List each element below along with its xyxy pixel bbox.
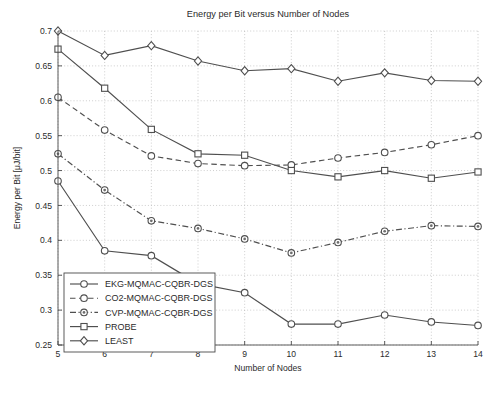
data-point-marker: [335, 239, 342, 246]
data-point-marker: [101, 187, 108, 194]
series-line-2: [58, 154, 478, 253]
x-tick-label: 9: [242, 349, 247, 359]
data-point-marker: [194, 57, 201, 65]
y-tick-label: 0.35: [35, 270, 52, 280]
x-tick-label: 14: [473, 349, 483, 359]
data-point-marker: [428, 175, 434, 181]
y-tick-label: 0.25: [35, 340, 52, 350]
y-axis-label: Energy per Bit [μJ/bit]: [12, 147, 22, 229]
data-point-marker: [428, 76, 435, 84]
y-tick-label: 0.7: [40, 26, 52, 36]
data-point-marker: [195, 225, 202, 232]
x-tick-label: 13: [427, 349, 437, 359]
data-point-marker: [241, 67, 248, 75]
data-point-marker: [475, 169, 481, 175]
data-point-marker: [475, 322, 482, 329]
x-tick-label: 10: [287, 349, 297, 359]
data-point-marker: [475, 132, 482, 139]
x-tick-label: 5: [56, 349, 61, 359]
data-point-marker: [381, 312, 388, 319]
x-tick-label: 11: [334, 349, 343, 359]
series-line-4: [58, 31, 478, 81]
data-point-marker: [148, 153, 155, 160]
y-tick-label: 0.65: [35, 61, 52, 71]
data-point-marker: [381, 149, 388, 156]
x-axis-label: Number of Nodes: [234, 363, 301, 373]
data-point-marker: [148, 217, 155, 224]
series-line-3: [58, 49, 478, 178]
data-point-marker: [382, 167, 388, 173]
data-point-marker: [288, 167, 294, 173]
data-point-marker: [335, 321, 342, 328]
y-tick-label: 0.5: [40, 166, 52, 176]
data-point-marker: [381, 69, 388, 77]
data-point-marker: [101, 51, 108, 59]
data-point-marker: [241, 289, 248, 296]
data-point-marker: [428, 319, 435, 326]
data-point-marker: [335, 155, 342, 162]
series-line-1: [58, 97, 478, 165]
data-point-marker: [101, 127, 108, 134]
energy-per-bit-line-chart: 5678910111213140.250.30.350.40.450.50.55…: [0, 0, 491, 393]
y-tick-label: 0.45: [35, 201, 52, 211]
data-point-marker: [381, 228, 388, 235]
chart-title: Energy per Bit versus Number of Nodes: [187, 9, 350, 19]
data-point-marker: [195, 151, 201, 157]
legend-label-2: CVP-MQMAC-CQBR-DGS: [105, 308, 213, 318]
data-point-marker: [195, 160, 202, 167]
data-point-marker: [475, 223, 482, 230]
data-point-marker: [102, 85, 108, 91]
y-tick-label: 0.4: [40, 235, 52, 245]
data-point-marker: [101, 248, 108, 255]
legend-label-3: PROBE: [105, 322, 137, 332]
y-tick-label: 0.55: [35, 131, 52, 141]
data-point-marker: [474, 77, 481, 85]
legend-label-0: EKG-MQMAC-CQBR-DGS: [105, 279, 213, 289]
data-point-marker: [428, 141, 435, 148]
y-tick-label: 0.6: [40, 96, 52, 106]
data-point-marker: [148, 42, 155, 50]
data-point-marker: [335, 174, 341, 180]
data-point-marker: [334, 77, 341, 85]
y-tick-label: 0.3: [40, 305, 52, 315]
data-point-marker: [148, 126, 154, 132]
data-point-marker: [428, 222, 435, 229]
x-tick-label: 12: [380, 349, 390, 359]
data-point-marker: [241, 236, 248, 243]
data-point-marker: [242, 152, 248, 158]
data-point-marker: [288, 250, 295, 257]
legend-label-1: CO2-MQMAC-CQBR-DGS: [105, 293, 213, 303]
data-point-marker: [288, 321, 295, 328]
chart-figure: 5678910111213140.250.30.350.40.450.50.55…: [0, 0, 491, 393]
legend-label-4: LEAST: [105, 336, 134, 346]
data-point-marker: [148, 252, 155, 259]
data-point-marker: [241, 162, 248, 169]
